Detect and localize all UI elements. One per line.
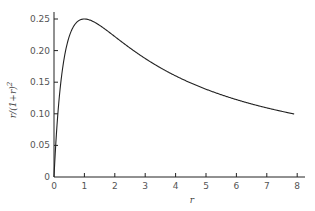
x-tick-label: 6 [234,181,240,191]
chart: 012345678 00.050.100.150.200.25 r r/(1+r… [0,0,315,211]
x-ticks: 012345678 [51,173,300,191]
y-tick-label: 0.20 [30,46,50,56]
x-tick-label: 7 [264,181,270,191]
x-tick-label: 1 [82,181,88,191]
y-tick-label: 0.10 [30,109,50,119]
y-tick-label: 0.15 [30,77,50,87]
x-tick-label: 8 [294,181,300,191]
x-tick-label: 5 [203,181,209,191]
x-tick-label: 0 [51,181,57,191]
x-tick-label: 2 [112,181,118,191]
y-tick-label: 0.05 [30,140,50,150]
axes [54,12,305,177]
x-axis-label: r [190,195,195,205]
x-tick-label: 4 [173,181,179,191]
y-axis-label: r/(1+r)2 [6,81,18,118]
data-curve [54,19,294,177]
y-tick-label: 0 [44,172,50,182]
y-tick-label: 0.25 [30,14,50,24]
x-tick-label: 3 [142,181,148,191]
